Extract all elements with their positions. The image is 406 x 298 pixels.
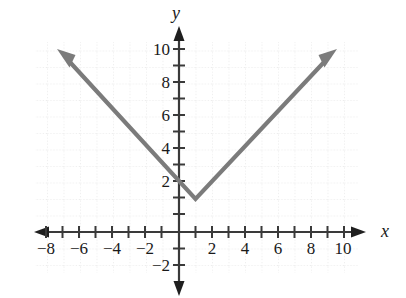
y-tick-label: 4: [140, 140, 170, 157]
x-tick-label: 8: [297, 240, 325, 257]
x-tick-label: 10: [328, 240, 358, 257]
x-tick-label: −4: [98, 240, 126, 257]
x-tick-label: −8: [32, 240, 60, 257]
x-tick-label: −2: [131, 240, 159, 257]
y-tick-label: 6: [140, 107, 170, 124]
y-axis-label: y: [172, 4, 180, 22]
x-tick-label: 4: [231, 240, 259, 257]
x-tick-label: −6: [65, 240, 93, 257]
x-tick-label: 2: [198, 240, 226, 257]
x-axis-label: x: [381, 222, 389, 240]
y-tick-label: 8: [140, 74, 170, 91]
chart-canvas: −8 −6 −4 −2 2 4 6 8 10 10 8 6 4 2 −2 y x: [0, 0, 406, 298]
x-tick-label: 6: [264, 240, 292, 257]
y-tick-label: 2: [140, 173, 170, 190]
y-tick-label: −2: [134, 257, 170, 274]
y-tick-label: 10: [140, 41, 170, 58]
